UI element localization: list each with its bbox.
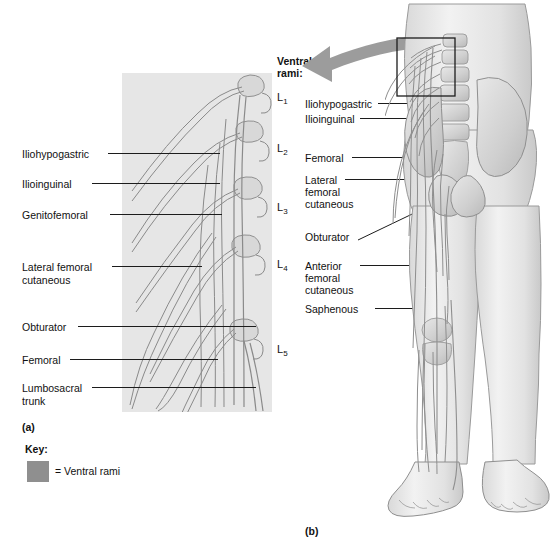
- panel-b-body-illustration: [385, 0, 553, 540]
- ventral-rami-heading-line2: rami:: [277, 68, 303, 80]
- label-lateral-femoral-cutaneous-a-line1: Lateral femoral: [22, 262, 92, 274]
- right-leg-shape: [475, 206, 541, 464]
- label-femoral-b: Femoral: [305, 153, 344, 165]
- vertebra-l1-number: 1: [283, 97, 287, 106]
- label-iliohypogastric-a: Iliohypogastric: [22, 149, 89, 161]
- key-swatch-ventral-rami: [27, 461, 49, 482]
- label-lateral-femoral-cutaneous-a-line2: cutaneous: [22, 275, 70, 287]
- ventral-rami-gray-panel: [122, 73, 272, 412]
- label-ilioinguinal-b: Ilioinguinal: [305, 114, 355, 126]
- key-entry-ventral-rami: = Ventral rami: [55, 465, 120, 477]
- leader-femoral-a: [70, 359, 218, 360]
- lower-body-nerve-anatomy-drawing: [385, 0, 553, 540]
- label-lumbosacral-trunk-a-line1: Lumbosacral: [22, 383, 82, 395]
- lumbar-plexus-figure: Iliohypogastric Ilioinguinal Genitofemor…: [0, 0, 553, 558]
- vertebra-l4-number: 4: [283, 264, 287, 273]
- vertebra-l3-number: 3: [283, 207, 287, 216]
- key-legend: Key: = Ventral rami: [25, 443, 225, 503]
- label-obturator-a: Obturator: [22, 322, 66, 334]
- label-lumbosacral-trunk-a-line2: trunk: [22, 396, 45, 408]
- label-anterior-femoral-cutaneous-b-line2: femoral: [305, 273, 340, 285]
- panel-a-caption: (a): [22, 421, 35, 433]
- label-obturator-b: Obturator: [305, 232, 349, 244]
- key-title: Key:: [25, 443, 48, 455]
- label-saphenous-b: Saphenous: [305, 304, 358, 316]
- leader-obturator-a: [78, 326, 256, 327]
- leader-genitofemoral-a: [110, 214, 222, 215]
- label-anterior-femoral-cutaneous-b-line1: Anterior: [305, 261, 342, 273]
- vertebra-label-l2: L2: [277, 142, 288, 157]
- vertebra-label-l3: L3: [277, 201, 288, 216]
- label-genitofemoral-a: Genitofemoral: [22, 210, 88, 222]
- vertebra-label-l1: L1: [277, 91, 288, 106]
- vertebra-label-l5: L5: [277, 343, 288, 358]
- panel-b-caption: (b): [305, 525, 318, 537]
- vertebra-l5-number: 5: [283, 349, 287, 358]
- panel-a-lumbar-plexus-detail: Iliohypogastric Ilioinguinal Genitofemor…: [0, 0, 300, 520]
- vertebra-l2-number: 2: [283, 148, 287, 157]
- label-iliohypogastric-b: Iliohypogastric: [305, 99, 372, 111]
- lumbar-plexus-nerve-drawing: [122, 73, 272, 412]
- label-anterior-femoral-cutaneous-b-line3: cutaneous: [305, 285, 353, 297]
- leader-lumbosacral-trunk-a: [92, 387, 256, 388]
- label-femoral-a: Femoral: [22, 355, 61, 367]
- label-lateral-femoral-cutaneous-b-line3: cutaneous: [305, 199, 353, 211]
- leader-lateral-femoral-cutaneous-a: [112, 266, 202, 267]
- label-lateral-femoral-cutaneous-b-line2: femoral: [305, 187, 340, 199]
- leader-iliohypogastric-a: [108, 153, 220, 154]
- label-lateral-femoral-cutaneous-b-line1: Lateral: [305, 175, 337, 187]
- vertebra-label-l4: L4: [277, 258, 288, 273]
- label-ilioinguinal-a: Ilioinguinal: [22, 179, 72, 191]
- leader-ilioinguinal-a: [92, 183, 220, 184]
